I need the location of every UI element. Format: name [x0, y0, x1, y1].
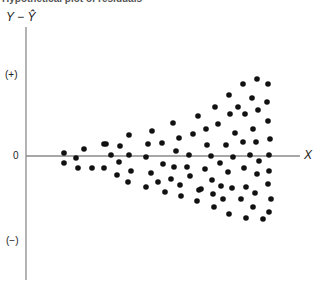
data-point [229, 185, 235, 191]
data-point [255, 107, 261, 113]
data-point [159, 140, 165, 146]
data-point [203, 126, 209, 132]
data-point [256, 158, 262, 164]
data-point [247, 152, 253, 158]
data-point [195, 113, 201, 119]
data-point [264, 99, 270, 105]
data-point [217, 160, 223, 166]
data-point [171, 164, 177, 170]
data-point [108, 152, 114, 158]
data-point [162, 189, 168, 195]
data-point [268, 196, 274, 202]
data-point [204, 142, 210, 148]
data-point [184, 164, 190, 170]
data-point [170, 120, 176, 126]
data-point [194, 198, 200, 204]
data-point [61, 150, 67, 156]
data-point [145, 141, 151, 147]
data-point [116, 159, 122, 165]
data-point [230, 154, 236, 160]
data-point [266, 209, 272, 215]
data-point [238, 196, 244, 202]
data-point [176, 135, 182, 141]
data-point [249, 95, 255, 101]
data-point [202, 166, 208, 172]
residual-points [61, 76, 274, 222]
data-point [148, 170, 154, 176]
data-point [155, 179, 161, 185]
data-point [225, 169, 231, 175]
data-point [220, 196, 226, 202]
data-point [126, 132, 132, 138]
data-point [265, 81, 271, 87]
data-point [168, 176, 174, 182]
data-point [265, 118, 271, 124]
data-point [125, 179, 131, 185]
data-point [252, 190, 258, 196]
data-point [223, 142, 229, 148]
data-point [218, 183, 224, 189]
data-point [190, 131, 196, 137]
data-point [178, 193, 184, 199]
data-point [143, 154, 149, 160]
data-point [89, 165, 95, 171]
data-point [101, 165, 107, 171]
data-point [198, 186, 204, 192]
data-point [117, 143, 123, 149]
data-point [254, 76, 260, 82]
data-point [250, 126, 256, 132]
data-point [160, 161, 166, 167]
data-point [266, 168, 272, 174]
data-point [215, 121, 221, 127]
data-point [242, 111, 248, 117]
data-point [266, 152, 272, 158]
data-point [143, 184, 149, 190]
data-point [232, 130, 238, 136]
data-point [250, 204, 256, 210]
data-point [240, 81, 246, 87]
data-point [212, 104, 218, 110]
data-point [265, 181, 271, 187]
data-point [210, 191, 216, 197]
data-point [103, 141, 109, 147]
data-point [209, 177, 215, 183]
data-point [211, 204, 217, 210]
data-point [208, 153, 214, 159]
data-point [149, 128, 155, 134]
data-point [243, 215, 249, 221]
data-point [73, 155, 79, 161]
data-point [226, 92, 232, 98]
data-point [61, 160, 67, 166]
data-point [235, 104, 241, 110]
data-point [187, 173, 193, 179]
data-point [254, 171, 260, 177]
data-point [241, 165, 247, 171]
data-point [227, 111, 233, 117]
data-point [173, 148, 179, 154]
data-point [114, 172, 120, 178]
data-point [253, 139, 259, 145]
data-point [75, 165, 81, 171]
data-point [243, 184, 249, 190]
data-point [177, 182, 183, 188]
data-point [240, 139, 246, 145]
data-point [260, 216, 266, 222]
data-point [128, 168, 134, 174]
scatter-plot [0, 0, 319, 292]
data-point [267, 136, 273, 142]
data-point [81, 146, 87, 152]
data-point [126, 152, 132, 158]
data-point [226, 211, 232, 217]
data-point [186, 152, 192, 158]
